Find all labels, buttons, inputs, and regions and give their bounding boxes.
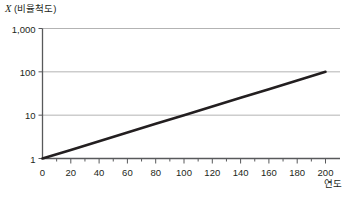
x-axis-tick-label: 200 (318, 167, 334, 178)
x-axis-tick-label: 80 (150, 167, 161, 178)
x-axis-tick-label: 160 (261, 167, 277, 178)
x-axis-tick-label: 20 (66, 167, 77, 178)
y-axis-tick-label: 100 (20, 66, 36, 77)
axis-lines (39, 29, 341, 159)
x-axis-tick-label: 180 (289, 167, 305, 178)
y-axis-tick-label: 1,000 (12, 23, 36, 34)
y-axis-tick-label: 1 (30, 153, 35, 164)
x-axis-ticks (57, 159, 326, 164)
x-axis-tick-label: 0 (40, 167, 45, 178)
x-axis-tick-label: 100 (176, 167, 192, 178)
y-axis-tick-label: 10 (25, 110, 36, 121)
x-axis-tick-label: 140 (233, 167, 249, 178)
gridlines (43, 29, 341, 116)
chart-container: X (비율척도) 연도 1,00010010102040608010012014… (0, 0, 350, 201)
x-axis-tick-label: 120 (204, 167, 220, 178)
x-axis-tick-label: 40 (94, 167, 105, 178)
x-axis-tick-label: 60 (122, 167, 133, 178)
